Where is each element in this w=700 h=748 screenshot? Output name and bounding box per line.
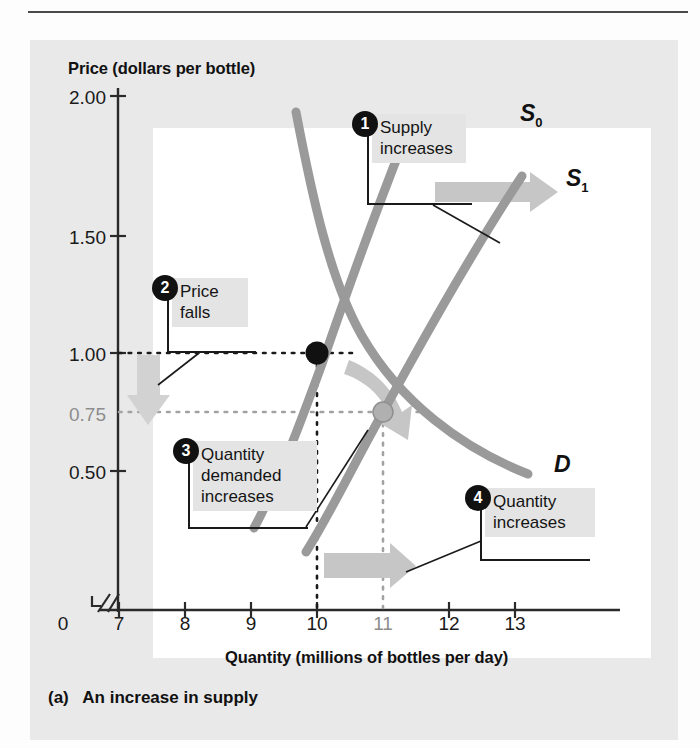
- figure-caption-label: (a): [48, 688, 69, 707]
- curve-label-S1-subscript: 1: [581, 180, 588, 195]
- callout-4-leader: [406, 541, 481, 572]
- callout-badge-4: 4: [465, 485, 491, 511]
- callout-badge-2: 2: [152, 275, 178, 301]
- callout-2-leader: [158, 353, 199, 385]
- curve-label-D: D: [554, 451, 571, 478]
- figure-caption: (a) An increase in supply: [48, 688, 258, 708]
- figure-caption-text: An increase in supply: [82, 688, 258, 707]
- chart-vector-layer: [0, 0, 700, 748]
- curve-label-S1-letter: S: [566, 165, 581, 191]
- demand-curve-D: [296, 112, 528, 474]
- axis-break-bracket: [92, 596, 101, 606]
- callout-text-2: Price falls: [172, 278, 248, 327]
- curve-label-S0: S0: [520, 100, 543, 130]
- callout-text-3: Quantity demanded increases: [193, 441, 317, 511]
- curve-label-S0-subscript: 0: [535, 115, 542, 130]
- equilibrium-point-original: [306, 342, 329, 365]
- supply-shift-arrow-icon: [435, 172, 558, 212]
- callout-text-4: Quantity increases: [485, 488, 595, 537]
- callout-badge-3: 3: [173, 438, 199, 464]
- curve-label-S1: S1: [566, 165, 589, 195]
- figure-page: Price (dollars per bottle) Quantity (mil…: [0, 0, 700, 748]
- callout-badge-1: 1: [352, 111, 378, 137]
- quantity-increase-arrow-icon: [324, 543, 416, 588]
- price-fall-arrow-icon: [127, 355, 170, 425]
- callout-text-1: Supply increases: [372, 114, 466, 163]
- curve-label-S0-letter: S: [520, 100, 535, 126]
- equilibrium-point-new: [373, 402, 393, 422]
